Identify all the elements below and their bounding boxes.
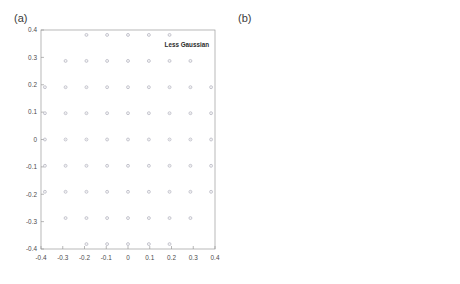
figure-container: (a) -0.4-0.3-0.2-0.100.10.20.30.4-0.4-0.… [0, 0, 460, 284]
plot-annotation: Less Gaussian [165, 41, 210, 48]
panel-b-plot: -0.500.5-0.5-0.4-0.3-0.2-0.100.10.20.30.… [230, 0, 460, 284]
x-tick-label: -0.2 [79, 254, 90, 261]
x-tick-label: 0.2 [167, 254, 176, 261]
y-tick-label: -0.2 [26, 191, 37, 198]
y-tick-label: -0.1 [26, 163, 37, 170]
x-tick-label: -0.4 [35, 254, 46, 261]
y-tick-label: 0.2 [28, 81, 37, 88]
y-tick-label: 0 [33, 136, 37, 143]
y-tick-label: 0.3 [28, 54, 37, 61]
y-tick-label: -0.3 [26, 218, 37, 225]
x-tick-label: 0.1 [145, 254, 154, 261]
x-tick-label: -0.1 [101, 254, 112, 261]
panel-a-plot: -0.4-0.3-0.2-0.100.10.20.30.4-0.4-0.3-0.… [0, 0, 230, 284]
x-tick-label: 0 [126, 254, 130, 261]
panel-b: (b) -0.500.5-0.5-0.4-0.3-0.2-0.100.10.20… [230, 0, 460, 284]
y-tick-label: -0.4 [26, 245, 37, 252]
x-tick-label: -0.3 [57, 254, 68, 261]
panel-a: (a) -0.4-0.3-0.2-0.100.10.20.30.4-0.4-0.… [0, 0, 230, 284]
y-tick-label: 0.4 [28, 26, 37, 33]
x-tick-label: 0.3 [189, 254, 198, 261]
y-tick-label: 0.1 [28, 108, 37, 115]
x-tick-label: 0.4 [211, 254, 220, 261]
